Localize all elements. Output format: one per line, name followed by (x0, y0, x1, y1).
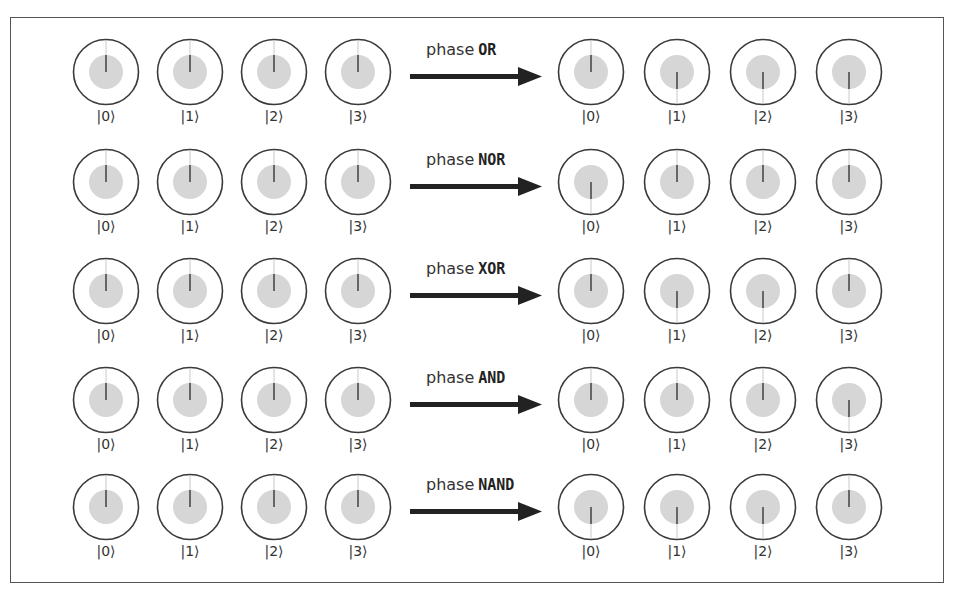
ket-label: |0⟩ (557, 436, 625, 452)
state-circle (815, 257, 883, 325)
output-state-2: |2⟩ (729, 473, 797, 563)
operation-arrow-group: phaseAND (408, 368, 548, 418)
ket-label: |1⟩ (643, 436, 711, 452)
state-circle (815, 38, 883, 106)
ket-label: |0⟩ (557, 327, 625, 343)
operation-prefix: phase (426, 368, 474, 387)
ket-label: |2⟩ (729, 327, 797, 343)
input-state-3: |3⟩ (324, 38, 392, 128)
state-circle (324, 257, 392, 325)
ket-label: |2⟩ (729, 108, 797, 124)
operation-label: phaseAND (426, 368, 505, 387)
ket-label: |1⟩ (643, 327, 711, 343)
state-circle (324, 366, 392, 434)
right-arrow-icon (408, 66, 544, 88)
operation-name: NOR (478, 151, 505, 169)
ket-label: |3⟩ (815, 543, 883, 559)
ket-label: |0⟩ (72, 108, 140, 124)
state-circle (72, 366, 140, 434)
state-circle (815, 473, 883, 541)
ket-label: |3⟩ (815, 218, 883, 234)
state-circle (815, 148, 883, 216)
ket-label: |3⟩ (324, 327, 392, 343)
ket-label: |1⟩ (156, 543, 224, 559)
ket-label: |1⟩ (156, 436, 224, 452)
ket-label: |3⟩ (324, 218, 392, 234)
operation-label: phaseNOR (426, 150, 505, 169)
state-circle (156, 366, 224, 434)
right-arrow-icon (408, 501, 544, 523)
output-state-1: |1⟩ (643, 38, 711, 128)
state-circle (324, 148, 392, 216)
input-state-0: |0⟩ (72, 366, 140, 456)
ket-label: |3⟩ (815, 436, 883, 452)
ket-label: |2⟩ (240, 543, 308, 559)
operation-label: phaseXOR (426, 259, 505, 278)
ket-label: |3⟩ (815, 327, 883, 343)
input-state-1: |1⟩ (156, 148, 224, 238)
operation-label: phaseNAND (426, 475, 514, 494)
ket-label: |0⟩ (557, 218, 625, 234)
state-circle (156, 148, 224, 216)
state-circle (156, 257, 224, 325)
output-state-0: |0⟩ (557, 473, 625, 563)
operation-arrow-group: phaseNOR (408, 150, 548, 200)
input-state-2: |2⟩ (240, 473, 308, 563)
input-state-1: |1⟩ (156, 366, 224, 456)
output-state-0: |0⟩ (557, 38, 625, 128)
input-state-0: |0⟩ (72, 473, 140, 563)
ket-label: |3⟩ (324, 436, 392, 452)
output-state-3: |3⟩ (815, 148, 883, 238)
state-circle (240, 38, 308, 106)
state-circle (240, 473, 308, 541)
output-state-3: |3⟩ (815, 257, 883, 347)
right-arrow-icon (408, 285, 544, 307)
state-circle (557, 366, 625, 434)
state-circle (643, 38, 711, 106)
operation-prefix: phase (426, 475, 474, 494)
ket-label: |0⟩ (72, 543, 140, 559)
input-state-3: |3⟩ (324, 473, 392, 563)
operation-prefix: phase (426, 40, 474, 59)
input-state-1: |1⟩ (156, 473, 224, 563)
right-arrow-icon (408, 394, 544, 416)
operation-name: OR (478, 41, 496, 59)
ket-label: |0⟩ (72, 218, 140, 234)
output-state-0: |0⟩ (557, 366, 625, 456)
state-circle (729, 148, 797, 216)
output-state-3: |3⟩ (815, 366, 883, 456)
output-state-1: |1⟩ (643, 473, 711, 563)
input-state-1: |1⟩ (156, 257, 224, 347)
operation-name: AND (478, 369, 505, 387)
ket-label: |2⟩ (729, 436, 797, 452)
state-circle (643, 148, 711, 216)
ket-label: |0⟩ (557, 108, 625, 124)
output-state-1: |1⟩ (643, 148, 711, 238)
output-state-2: |2⟩ (729, 366, 797, 456)
input-state-2: |2⟩ (240, 366, 308, 456)
operation-row-nand: |0⟩|1⟩|2⟩|3⟩phaseNAND|0⟩|1⟩|2⟩|3⟩ (0, 473, 956, 581)
ket-label: |2⟩ (729, 543, 797, 559)
ket-label: |3⟩ (324, 543, 392, 559)
input-state-2: |2⟩ (240, 38, 308, 128)
state-circle (156, 38, 224, 106)
state-circle (324, 473, 392, 541)
state-circle (324, 38, 392, 106)
operation-arrow-group: phaseOR (408, 40, 548, 90)
ket-label: |1⟩ (156, 327, 224, 343)
state-circle (72, 257, 140, 325)
ket-label: |0⟩ (72, 327, 140, 343)
state-circle (72, 38, 140, 106)
ket-label: |1⟩ (156, 108, 224, 124)
output-state-3: |3⟩ (815, 473, 883, 563)
output-state-0: |0⟩ (557, 257, 625, 347)
ket-label: |0⟩ (72, 436, 140, 452)
state-circle (729, 257, 797, 325)
state-circle (72, 473, 140, 541)
state-circle (72, 148, 140, 216)
operation-arrow-group: phaseNAND (408, 475, 548, 525)
state-circle (643, 366, 711, 434)
state-circle (815, 366, 883, 434)
ket-label: |3⟩ (324, 108, 392, 124)
state-circle (557, 38, 625, 106)
